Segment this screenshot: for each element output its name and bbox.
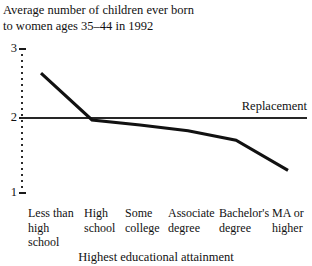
chart-figure: Average number of children ever born to … [0, 0, 312, 266]
x-label-bachelors-degree: Bachelor's degree [219, 206, 271, 235]
x-label-some-college: Some college [125, 206, 167, 235]
x-label-less-than-high-school: Less than high school [28, 206, 82, 250]
x-axis-category-labels: Less than high school High school Some c… [0, 206, 312, 254]
x-label-ma-or-higher: MA or higher [272, 206, 312, 235]
series-children-ever-born [41, 73, 288, 170]
x-label-associate-degree: Associate degree [168, 206, 218, 235]
x-axis-title: Highest educational attainment [0, 250, 312, 265]
x-label-high-school: High school [84, 206, 124, 235]
